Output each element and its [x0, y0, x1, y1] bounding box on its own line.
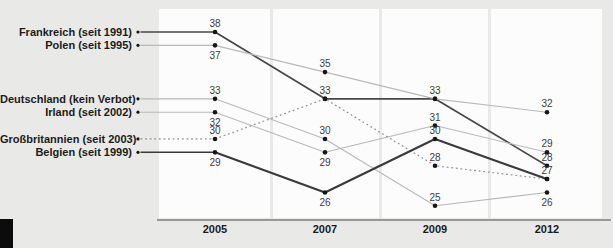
data-point — [545, 150, 550, 155]
data-point — [213, 110, 218, 115]
value-label: 30 — [209, 125, 221, 136]
data-point — [323, 70, 328, 75]
value-label: 30 — [319, 125, 331, 136]
data-point — [545, 177, 550, 182]
year-label-2012: 2012 — [535, 223, 559, 235]
value-label: 31 — [429, 112, 441, 123]
data-point — [323, 137, 328, 142]
data-point — [433, 97, 438, 102]
value-label: 32 — [541, 98, 553, 109]
data-point — [213, 137, 218, 142]
value-label: 26 — [319, 197, 331, 208]
value-label: 29 — [209, 157, 221, 168]
value-label: 30 — [429, 125, 441, 136]
leader-dot-1 — [136, 44, 139, 47]
value-label: 28 — [429, 152, 441, 163]
data-point — [545, 190, 550, 195]
year-label-2005: 2005 — [203, 223, 227, 235]
value-label: 38 — [209, 18, 221, 29]
value-label: 33 — [429, 85, 441, 96]
value-label: 33 — [319, 85, 331, 96]
value-label: 35 — [319, 58, 331, 69]
value-label: 25 — [429, 192, 441, 203]
value-label: 29 — [541, 138, 553, 149]
data-point — [433, 163, 438, 168]
data-point — [323, 190, 328, 195]
leader-dot-0 — [136, 30, 139, 33]
value-label: 37 — [209, 50, 221, 61]
year-label-2009: 2009 — [423, 223, 447, 235]
data-point — [323, 150, 328, 155]
leader-dot-4 — [136, 137, 139, 140]
data-point — [433, 204, 438, 209]
data-point — [545, 110, 550, 115]
data-point — [433, 137, 438, 142]
leader-dot-2 — [136, 97, 139, 100]
leader-dot-5 — [136, 151, 139, 154]
data-point — [213, 30, 218, 35]
leader-dot-3 — [136, 111, 139, 114]
data-point — [323, 97, 328, 102]
value-label: 33 — [209, 85, 221, 96]
year-label-2007: 2007 — [313, 223, 337, 235]
country-label-5: Belgien (seit 1999) — [0, 144, 132, 160]
country-label-1: Polen (seit 1995) — [0, 37, 132, 53]
data-point — [213, 97, 218, 102]
value-label: 26 — [541, 197, 553, 208]
year-column-panel-2007 — [273, 9, 379, 218]
value-label: 29 — [319, 157, 331, 168]
data-point — [213, 150, 218, 155]
value-label: 27 — [541, 165, 553, 176]
country-label-3: Irland (seit 2002) — [0, 104, 132, 120]
data-point — [213, 43, 218, 48]
chart-figure: 3833332837353233302526322931293028292630… — [0, 0, 613, 248]
page-corner-block — [0, 219, 13, 248]
